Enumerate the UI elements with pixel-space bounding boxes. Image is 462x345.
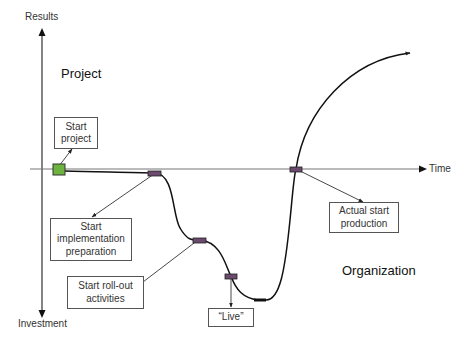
region-project-label: Project <box>61 66 101 81</box>
milestone-start-roll-out-activities: Start roll-out activities <box>67 276 144 309</box>
y-axis-bottom-label: Investment <box>18 318 67 329</box>
vertical-axis <box>39 28 46 318</box>
implementation-marker <box>148 171 161 176</box>
x-axis-label: Time <box>429 163 451 174</box>
milestone-start-project: Start project <box>54 117 98 149</box>
milestone-label: Start <box>65 121 86 134</box>
region-organization-label: Organization <box>342 263 416 278</box>
milestone-label: implementation <box>57 233 125 246</box>
y-axis-top-label: Results <box>25 11 58 22</box>
axis-arrow-right-icon <box>419 166 427 173</box>
milestone-label: preparation <box>66 246 117 259</box>
axis-arrow-down-icon <box>39 310 46 318</box>
milestone-label: production <box>341 218 388 231</box>
milestone-label: Start roll-out <box>78 280 132 293</box>
production-marker <box>290 167 302 172</box>
milestone-label: Actual start <box>339 205 389 218</box>
milestone-label: activities <box>86 293 124 306</box>
milestone-label: project <box>61 133 91 146</box>
roll-out-marker <box>193 238 206 243</box>
milestone-label: Start <box>80 221 101 234</box>
live-marker <box>225 274 237 279</box>
milestone-live: “Live” <box>208 308 254 327</box>
axis-arrow-up-icon <box>39 28 46 36</box>
milestone-actual-start-production: Actual start production <box>329 202 399 233</box>
milestone-label: “Live” <box>218 311 243 324</box>
start-project-marker <box>53 164 65 175</box>
milestone-start-implementation-preparation: Start implementation preparation <box>50 218 132 261</box>
